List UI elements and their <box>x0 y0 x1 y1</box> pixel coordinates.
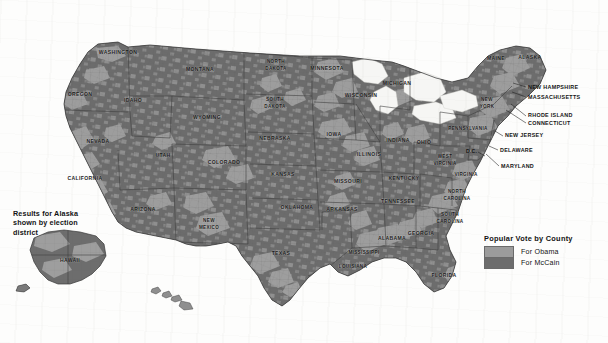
state-label-west-virginia-line1: WEST <box>438 154 453 159</box>
state-label-wyoming: WYOMING <box>193 114 221 120</box>
legend-row-obama: For Obama <box>484 246 604 257</box>
state-label-ohio: OHIO <box>417 139 431 145</box>
state-label-vermont: MAINE <box>487 55 505 61</box>
state-label-idaho: IDAHO <box>124 97 142 103</box>
state-label-south-carolina-line2: CAROLINA <box>436 219 463 224</box>
state-label-kentucky: KENTUCKY <box>388 175 419 181</box>
state-label-alaska: HAWAII <box>60 257 80 263</box>
state-label-north-dakota-line2: DAKOTA <box>265 66 287 71</box>
legend-title: Popular Vote by County <box>484 234 604 243</box>
state-label-georgia: GEORGIA <box>408 230 435 236</box>
state-label-new-york-line2: YORK <box>480 104 495 109</box>
legend-row-mccain: For McCain <box>484 257 604 268</box>
state-label-south-dakota-line2: DAKOTA <box>264 104 286 109</box>
legend-label-mccain: For McCain <box>521 259 560 267</box>
state-label-washington: WASHINGTON <box>99 49 138 55</box>
state-label-north-carolina-line2: CAROLINA <box>443 196 470 201</box>
state-label-south-dakota-line1: SOUTH <box>266 97 284 102</box>
state-label-illinois: ILLINOIS <box>357 151 382 157</box>
alaska-note: Results for Alaska shown by election dis… <box>13 209 99 237</box>
legend-label-obama: For Obama <box>521 248 559 256</box>
state-label-nebraska: NEBRASKA <box>259 135 291 141</box>
state-label-nevada: NEVADA <box>86 138 109 144</box>
leader-label-connecticut: CONNECTICUT <box>528 120 571 126</box>
state-label-oklahoma: OKLAHOMA <box>281 204 314 210</box>
state-label-new-mexico-line2: MEXICO <box>199 225 219 230</box>
state-label-arizona: ARIZONA <box>130 206 156 212</box>
state-label-minnesota: MINNESOTA <box>310 65 343 71</box>
state-label-arkansas: ARKANSAS <box>326 206 358 212</box>
state-label-north-carolina-line1: NORTH <box>448 189 466 194</box>
state-label-maine: ALASKA <box>518 54 541 60</box>
state-label-north-dakota-line1: NORTH <box>267 59 285 64</box>
state-label-pennsylvania: PENNSYLVANIA <box>448 126 488 131</box>
state-label-west-virginia-line2: VIRGINIA <box>433 161 457 166</box>
leader-label-delaware: DELAWARE <box>500 147 533 153</box>
leader-label-new-jersey: NEW JERSEY <box>505 132 543 138</box>
state-label-south-carolina-line1: SOUTH <box>441 212 459 217</box>
leader-label-massachusetts: MASSACHUSETTS <box>528 94 581 100</box>
leader-label-rhode-island: RHODE ISLAND <box>528 112 573 118</box>
state-label-new-york-line1: NEW <box>481 97 493 102</box>
us-county-election-map: WASHINGTON OREGON IDAHO MONTANA WYOMING … <box>0 0 608 343</box>
state-label-louisiana: LOUISIANA <box>339 264 368 269</box>
state-label-montana: MONTANA <box>186 66 214 72</box>
state-label-indiana: INDIANA <box>386 137 410 143</box>
state-label-florida: FLORIDA <box>431 272 456 278</box>
state-label-tennessee: TENNESSEE <box>381 198 415 204</box>
state-label-utah: UTAH <box>155 152 170 158</box>
state-label-mississippi: MISSISSIPPI <box>348 250 379 255</box>
leader-label-dc: D.C. <box>466 148 478 154</box>
state-label-colorado: COLORADO <box>208 159 241 165</box>
state-label-kansas: KANSAS <box>271 171 295 177</box>
state-label-texas: TEXAS <box>272 250 291 256</box>
leader-label-new-hampshire: NEW HAMPSHIRE <box>528 84 578 90</box>
state-label-virginia: VIRGINIA <box>454 172 478 177</box>
state-label-new-mexico-line1: NEW <box>203 218 215 223</box>
state-label-missouri: MISSOURI <box>334 178 362 184</box>
state-label-oregon: OREGON <box>68 91 93 97</box>
state-label-michigan: MICHIGAN <box>383 80 412 86</box>
leader-label-maryland: MARYLAND <box>501 163 534 169</box>
legend-swatch-mccain <box>484 257 514 269</box>
map-canvas: WASHINGTON OREGON IDAHO MONTANA WYOMING … <box>0 0 608 343</box>
map-legend: Popular Vote by County For Obama For McC… <box>484 234 604 268</box>
state-label-alabama: ALABAMA <box>378 235 406 241</box>
state-label-california: CALIFORNIA <box>68 175 103 181</box>
state-label-iowa: IOWA <box>327 131 342 137</box>
state-label-wisconsin: WISCONSIN <box>345 92 378 98</box>
